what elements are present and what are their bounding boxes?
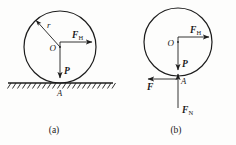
weight-label-a: P xyxy=(64,66,70,76)
panel-b: O F H P F F N A (b) xyxy=(144,8,212,136)
caption-a: (a) xyxy=(49,125,60,136)
normal-force-subscript-b: N xyxy=(189,109,194,116)
contact-point-label-a: A xyxy=(56,88,63,98)
figure-container: r O F H P xyxy=(0,0,236,145)
radius-label-a: r xyxy=(47,20,51,30)
weight-label-b: P xyxy=(182,59,188,69)
contact-point-label-b: A xyxy=(180,76,187,86)
force-horizontal-subscript-a: H xyxy=(79,34,84,41)
panel-a: r O F H P xyxy=(8,11,116,136)
physics-diagram-svg: r O F H P xyxy=(0,0,236,145)
caption-b: (b) xyxy=(170,125,181,136)
friction-label-b: F xyxy=(146,82,154,92)
center-label-b: O xyxy=(168,38,175,48)
center-label-a: O xyxy=(50,43,57,53)
force-horizontal-subscript-b: H xyxy=(197,29,202,36)
